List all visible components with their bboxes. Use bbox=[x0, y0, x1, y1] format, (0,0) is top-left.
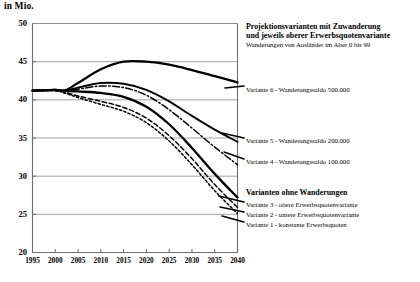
gridlines bbox=[33, 24, 238, 215]
legend-item-0: Variante 6 - Wanderungssaldo 500.000 bbox=[246, 86, 350, 94]
legend-group1-title-line2: und jeweils oberer Erwerbsquotenvariante bbox=[246, 31, 420, 40]
legend-group1-subtitle: Wanderungen von Ausländer im Alter 0 bis… bbox=[246, 41, 420, 49]
legend-item-5: Variante 2 - untere Erwerbsquotenvariant… bbox=[246, 211, 359, 219]
legend-item-2: Variante 4 - Wanderungssaldo 100.000 bbox=[246, 158, 350, 166]
legend-group2-title: Varianten ohne Wanderungen bbox=[246, 189, 347, 197]
curve-1 bbox=[33, 91, 238, 214]
data-curves bbox=[33, 61, 238, 214]
legend-item-4: Variante 3 - obere Erwerbsquotenvariante bbox=[246, 201, 357, 209]
y-tick-label-25: 25 bbox=[5, 210, 27, 218]
y-tick-label-35: 35 bbox=[5, 134, 27, 142]
legend-item-1: Variante 5 - Wanderungssaldo 200.000 bbox=[246, 137, 350, 145]
legend-item-6: Variante 1 - konstante Erwerbsquoten bbox=[246, 221, 347, 229]
x-tick-label-2040: 2040 bbox=[223, 257, 253, 265]
y-tick-label-20: 20 bbox=[5, 248, 27, 256]
y-tick-label-45: 45 bbox=[5, 57, 27, 65]
y-tick-label-40: 40 bbox=[5, 95, 27, 103]
y-tick-label-50: 50 bbox=[5, 19, 27, 27]
y-tick-label-30: 30 bbox=[5, 172, 27, 180]
chart-legend: Projektionsvarianten mit Zuwanderung und… bbox=[246, 22, 420, 49]
curve-2 bbox=[33, 91, 238, 208]
legend-group1-title-line1: Projektionsvarianten mit Zuwanderung bbox=[246, 22, 420, 31]
